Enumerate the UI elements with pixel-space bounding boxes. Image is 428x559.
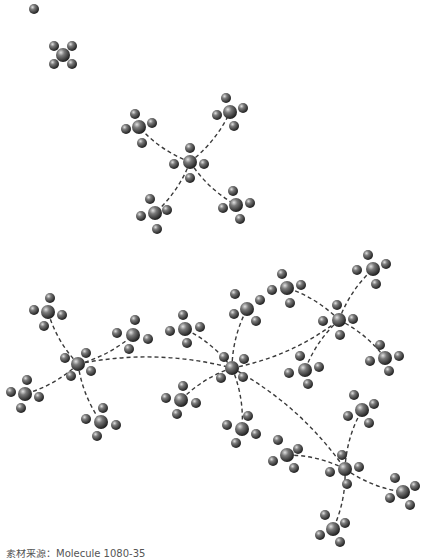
central-atom [229,198,243,212]
bond-line [190,162,236,205]
bond-line [339,269,373,320]
bond-line [181,368,232,400]
central-atom [396,485,410,499]
substituent-atom [212,110,222,120]
substituent-atom [6,387,16,397]
substituent-atom [245,198,255,208]
substituent-atom [348,314,358,324]
central-atom [174,393,188,407]
substituent-atom [185,143,195,153]
substituent-atom [229,121,239,131]
substituent-atom [318,316,328,326]
substituent-atom [229,309,239,319]
substituent-atom [238,372,248,382]
substituent-atom [296,280,306,290]
substituent-atom [273,435,283,445]
substituent-atom [337,450,347,460]
substituent-atom [365,356,375,366]
central-atom [355,403,369,417]
central-atom [183,155,197,169]
central-atom [225,361,239,375]
substituent-atom [369,399,379,409]
substituent-atom [143,334,153,344]
substituent-atom [81,348,91,358]
substituent-atom [268,456,278,466]
substituent-atom [57,310,67,320]
substituent-atom [354,462,364,472]
substituent-atom [172,409,182,419]
central-atom [235,422,249,436]
substituent-atom [22,375,32,385]
substituent-atom [251,316,261,326]
central-atom [148,206,162,220]
substituent-atom [235,214,245,224]
central-atom [326,522,340,536]
molecule-diagram [0,0,428,559]
substituent-atom [112,328,122,338]
substituent-atom [182,338,192,348]
substituent-atom [335,537,345,547]
substituent-atom [66,371,76,381]
atom-layer [6,4,420,547]
substituent-atom [293,444,303,454]
substituent-atom [251,429,261,439]
substituent-atom [124,344,134,354]
central-atom [280,448,294,462]
central-atom [223,105,237,119]
substituent-atom [137,138,147,148]
bond-line [339,320,385,358]
substituent-atom [145,194,155,204]
substituent-atom [81,414,91,424]
substituent-atom [130,109,140,119]
central-atom [18,387,32,401]
central-atom [41,305,55,319]
source-caption: 素材来源：Molecule 1080-35 [6,549,145,559]
substituent-atom [185,173,195,183]
substituent-atom [267,285,277,295]
substituent-atom [315,530,325,540]
substituent-atom [152,224,162,234]
substituent-atom [320,510,330,520]
substituent-atom [375,340,385,350]
central-atom [378,351,392,365]
substituent-atom [16,403,26,413]
substituent-atom [239,354,249,364]
substituent-atom [111,420,121,430]
substituent-atom [230,289,240,299]
central-atom [56,48,70,62]
bond-line [190,112,230,162]
substituent-atom [49,41,59,51]
substituent-atom [121,124,131,134]
substituent-atom [371,279,381,289]
substituent-atom [405,500,415,510]
substituent-atom [314,362,324,372]
substituent-atom [98,403,108,413]
substituent-atom [86,366,96,376]
central-atom [94,415,108,429]
substituent-atom [381,259,391,269]
substituent-atom [49,59,59,69]
substituent-atom [29,305,39,315]
substituent-atom [219,352,229,362]
substituent-atom [277,269,287,279]
substituent-atom [130,315,140,325]
substituent-atom [178,381,188,391]
substituent-atom [218,203,228,213]
substituent-atom [191,398,201,408]
central-atom [240,302,254,316]
substituent-atom [243,411,253,421]
substituent-atom [199,159,209,169]
substituent-atom [169,159,179,169]
substituent-atom [221,93,231,103]
substituent-atom [178,310,188,320]
substituent-atom [332,300,342,310]
substituent-atom [231,438,241,448]
central-atom [298,363,312,377]
bond-line [78,357,232,368]
bond-line [305,320,339,370]
central-atom [332,313,346,327]
central-atom [280,281,294,295]
substituent-atom [384,366,394,376]
substituent-atom [228,186,238,196]
substituent-atom [147,118,157,128]
